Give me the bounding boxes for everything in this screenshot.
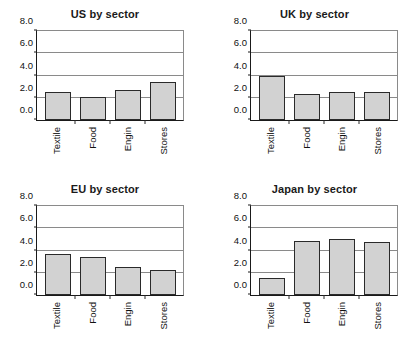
- y-axis-tick-label: 8.0: [234, 190, 247, 201]
- bar-slot: [254, 206, 289, 295]
- bar-slot: [40, 206, 75, 295]
- bar-slot: [289, 206, 324, 295]
- x-axis-label-slot: Food: [75, 302, 111, 346]
- x-axis-label: Engin: [123, 302, 133, 326]
- y-axis-tick-label: 4.0: [20, 234, 33, 245]
- x-axis-tick: [110, 120, 111, 124]
- bar: [329, 92, 355, 120]
- y-axis-tick-label: 2.0: [20, 81, 33, 92]
- bar-slot: [359, 31, 394, 120]
- bar: [115, 267, 141, 295]
- x-axis-label-slot: Food: [289, 302, 325, 346]
- bar-slot: [324, 206, 359, 295]
- bar-slot: [75, 206, 110, 295]
- x-axis-tick: [145, 120, 146, 124]
- x-axis-label: Stores: [159, 127, 169, 154]
- plot-area: 0.02.04.06.08.0: [250, 30, 398, 121]
- x-axis-label: Stores: [373, 302, 383, 329]
- x-axis-label-slot: Stores: [146, 302, 182, 346]
- y-axis-tick-label: 4.0: [234, 234, 247, 245]
- bar-slot: [110, 206, 145, 295]
- x-axis-label: Stores: [373, 127, 383, 154]
- x-axis-label-slot: Textile: [39, 302, 75, 346]
- x-axis-label: Food: [88, 127, 98, 149]
- x-axis-tick: [289, 295, 290, 299]
- y-axis-tick-label: 6.0: [20, 212, 33, 223]
- y-axis-tick-label: 0.0: [234, 279, 247, 290]
- bar: [364, 92, 390, 120]
- x-axis-label: Engin: [123, 127, 133, 151]
- bar-slot: [145, 31, 180, 120]
- y-axis-tick-label: 2.0: [20, 256, 33, 267]
- x-axis-label: Food: [302, 127, 312, 149]
- x-axis-label-slot: Stores: [146, 127, 182, 171]
- bar: [259, 278, 285, 295]
- bar: [115, 90, 141, 120]
- bar-series: [37, 206, 183, 295]
- bar-slot: [324, 31, 359, 120]
- x-axis-label-slot: Engin: [324, 127, 360, 171]
- x-axis-tick: [324, 120, 325, 124]
- bar-slot: [145, 206, 180, 295]
- x-axis-label-slot: Stores: [360, 302, 396, 346]
- y-axis-tick-label: 0.0: [20, 279, 33, 290]
- bar-slot: [40, 31, 75, 120]
- x-axis-label: Stores: [159, 302, 169, 329]
- x-axis-label: Food: [88, 302, 98, 324]
- bar-series: [251, 31, 397, 120]
- bar: [329, 239, 355, 295]
- x-axis-label: Textile: [266, 302, 276, 329]
- x-axis-label-slot: Stores: [360, 127, 396, 171]
- y-axis-tick-label: 0.0: [20, 104, 33, 115]
- x-axis-label: Textile: [52, 302, 62, 329]
- x-axis-label-slot: Textile: [39, 127, 75, 171]
- x-axis-label: Textile: [266, 127, 276, 154]
- x-axis-labels: TextileFoodEnginStores: [36, 127, 184, 171]
- y-axis-tick-label: 6.0: [234, 212, 247, 223]
- plot-area: 0.02.04.06.08.0: [250, 205, 398, 296]
- bar-slot: [75, 31, 110, 120]
- y-axis-tick-label: 8.0: [20, 15, 33, 26]
- x-axis-labels: TextileFoodEnginStores: [250, 302, 398, 346]
- bar-series: [37, 31, 183, 120]
- bar: [150, 82, 176, 120]
- bar-series: [251, 206, 397, 295]
- bar: [259, 76, 285, 121]
- x-axis-tick: [324, 295, 325, 299]
- x-axis-label-slot: Textile: [253, 302, 289, 346]
- chart-panel-eu: EU by sector 0.02.04.06.08.0 TextileFood…: [0, 175, 210, 349]
- bar-slot: [289, 31, 324, 120]
- x-axis-tick: [75, 120, 76, 124]
- y-axis-tick-label: 4.0: [20, 59, 33, 70]
- x-axis-tick: [75, 295, 76, 299]
- y-axis-tick-label: 0.0: [234, 104, 247, 115]
- y-axis-tick-label: 8.0: [234, 15, 247, 26]
- bar: [80, 257, 106, 295]
- bar: [364, 242, 390, 295]
- chart-panel-japan: Japan by sector 0.02.04.06.08.0 TextileF…: [210, 175, 419, 349]
- x-axis-label: Textile: [52, 127, 62, 154]
- bar: [294, 241, 320, 295]
- x-axis-labels: TextileFoodEnginStores: [36, 302, 184, 346]
- x-axis-label-slot: Textile: [253, 127, 289, 171]
- y-axis-tick-label: 2.0: [234, 81, 247, 92]
- bar: [150, 270, 176, 295]
- x-axis-label: Engin: [337, 302, 347, 326]
- bar-slot: [254, 31, 289, 120]
- x-axis-label-slot: Engin: [110, 127, 146, 171]
- plot-area: 0.02.04.06.08.0: [36, 30, 184, 121]
- bar: [80, 97, 106, 120]
- x-axis-label: Food: [302, 302, 312, 324]
- y-axis-tick-label: 4.0: [234, 59, 247, 70]
- x-axis-labels: TextileFoodEnginStores: [250, 127, 398, 171]
- x-axis-tick: [359, 120, 360, 124]
- x-axis-label: Engin: [337, 127, 347, 151]
- x-axis-label-slot: Food: [289, 127, 325, 171]
- x-axis-label-slot: Engin: [110, 302, 146, 346]
- bar-slot: [359, 206, 394, 295]
- plot-area: 0.02.04.06.08.0: [36, 205, 184, 296]
- y-axis-tick-label: 2.0: [234, 256, 247, 267]
- y-axis-tick-label: 6.0: [234, 37, 247, 48]
- chart-panel-uk: UK by sector 0.02.04.06.08.0 TextileFood…: [210, 0, 419, 175]
- x-axis-label-slot: Engin: [324, 302, 360, 346]
